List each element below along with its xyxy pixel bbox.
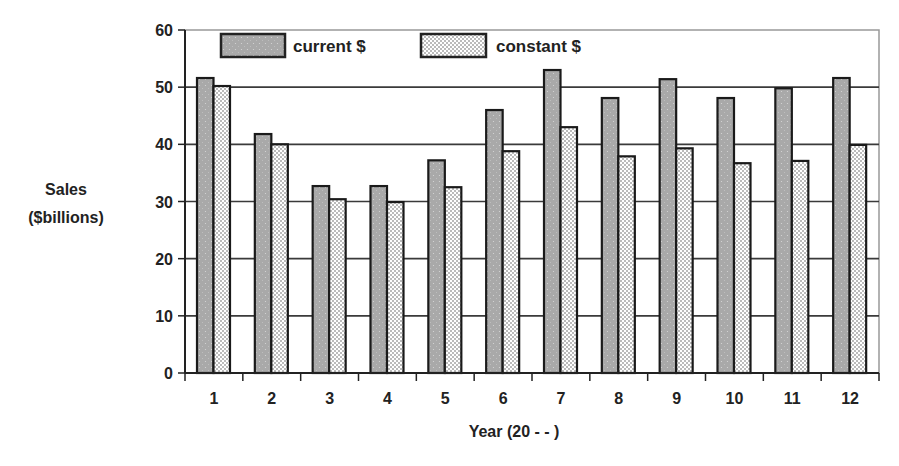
y-tick-label: 50 [155, 79, 173, 96]
legend: current $ constant $ [221, 34, 582, 57]
x-tick-label: 1 [209, 390, 218, 407]
plot-area: 0102030405060123456789101112 [155, 22, 879, 407]
bar-constant [445, 187, 462, 373]
bar-current [718, 98, 735, 373]
bar-current [486, 110, 503, 373]
bar-current [660, 79, 677, 373]
bar-constant [850, 145, 867, 373]
bar-chart: 0102030405060123456789101112 current $ c… [0, 0, 899, 466]
x-tick-label: 9 [672, 390, 681, 407]
y-tick-label: 30 [155, 194, 173, 211]
bar-constant [503, 151, 519, 373]
x-tick-label: 8 [614, 390, 623, 407]
x-tick-label: 7 [556, 390, 565, 407]
x-tick-label: 2 [267, 390, 276, 407]
legend-swatch-constant [421, 34, 486, 57]
bar-current [197, 78, 214, 373]
x-axis-title: Year (20 - - ) [469, 423, 560, 440]
bar-constant [387, 202, 404, 373]
bar-constant [271, 144, 288, 373]
x-tick-label: 5 [441, 390, 450, 407]
bar-current [371, 186, 388, 373]
bar-current [833, 78, 850, 373]
bar-constant [618, 156, 635, 373]
bar-current [775, 88, 792, 373]
bar-constant [792, 161, 809, 373]
y-tick-label: 20 [155, 251, 173, 268]
bar-constant [734, 163, 751, 373]
legend-label-current: current $ [293, 37, 366, 56]
bar-current [428, 160, 445, 373]
bar-current [544, 70, 561, 373]
y-tick-label: 10 [155, 308, 173, 325]
bar-constant [329, 199, 346, 373]
y-tick-label: 40 [155, 136, 173, 153]
y-tick-label: 60 [155, 22, 173, 39]
bar-current [602, 98, 619, 373]
y-tick-label: 0 [164, 365, 173, 382]
bar-constant [561, 127, 578, 373]
legend-label-constant: constant $ [496, 37, 582, 56]
x-tick-label: 12 [841, 390, 859, 407]
bar-constant [214, 86, 231, 373]
legend-swatch-current [221, 34, 285, 57]
x-tick-label: 4 [383, 390, 392, 407]
x-tick-label: 3 [325, 390, 334, 407]
bar-current [313, 186, 330, 373]
bar-constant [676, 148, 693, 373]
x-tick-label: 11 [784, 390, 801, 407]
x-tick-label: 6 [499, 390, 508, 407]
bar-current [255, 134, 271, 373]
x-tick-label: 10 [726, 390, 744, 407]
